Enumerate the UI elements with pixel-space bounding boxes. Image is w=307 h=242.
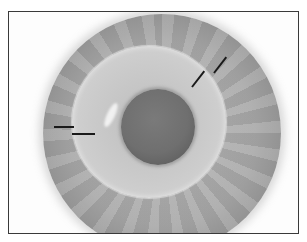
marker-left-1 <box>54 126 74 128</box>
pupil <box>121 89 195 165</box>
marker-left-2 <box>72 133 95 135</box>
image-frame <box>8 11 299 234</box>
